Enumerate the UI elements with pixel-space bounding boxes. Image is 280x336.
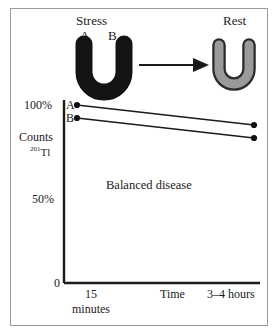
transition-arrow-icon [139,58,209,72]
series-b-marker-end [251,135,257,141]
figure-canvas: Stress Rest A B 100% 50% 0 Counts 201Tl … [0,0,280,336]
stress-myocardium-icon [84,44,124,92]
figure-artwork [0,0,280,336]
series-b-marker-start [74,115,80,121]
series-a-marker-end [251,122,257,128]
series-b-line [74,115,257,141]
series-a-line [74,102,257,128]
series-a-marker-start [74,102,80,108]
